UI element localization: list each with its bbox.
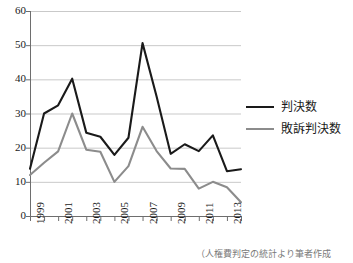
y-tick-label-10: 10	[2, 176, 26, 187]
line-chart-figure: 0102030405060 19992001200320052007200920…	[0, 0, 353, 263]
chart-caption: （人権費判定の統計より筆者作成	[196, 249, 353, 260]
legend-line-swatch-1	[246, 106, 274, 108]
y-tick-label-30: 30	[2, 108, 26, 119]
legend-label-2: 敗訴判決数	[281, 123, 341, 136]
series-line-2	[30, 114, 241, 203]
legend-item-1[interactable]: 判決数	[246, 96, 351, 118]
y-tick-label-40: 40	[2, 73, 26, 84]
legend-line-swatch-2	[246, 128, 274, 130]
y-tick-label-50: 50	[2, 39, 26, 50]
series-line-1	[30, 43, 241, 171]
legend-item-2[interactable]: 敗訴判決数	[246, 118, 351, 140]
y-tick-label-60: 60	[2, 5, 26, 16]
legend-label-1: 判決数	[281, 101, 317, 114]
chart-legend: 判決数敗訴判決数	[246, 96, 351, 140]
y-tick-label-0: 0	[2, 210, 26, 221]
y-tick-label-20: 20	[2, 142, 26, 153]
y-axis-tick-labels: 0102030405060	[0, 0, 26, 230]
